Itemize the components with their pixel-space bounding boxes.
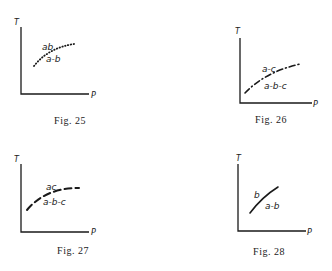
phase-diagrams-figure-set: T P ab a-b Fig. 25 T P a-c a-b-c Fig. 26… [0, 0, 332, 271]
region-label-below: a-b-c [264, 81, 287, 91]
figure-caption: Fig. 26 [255, 114, 287, 125]
y-axis-label: T [14, 155, 20, 164]
region-label-above: b [254, 190, 260, 200]
y-axis-label: T [235, 27, 241, 36]
axes [240, 38, 312, 103]
figure-26: T P a-c a-b-c Fig. 26 [235, 27, 318, 125]
region-label-above: a-c [262, 64, 276, 74]
y-axis-label: T [236, 154, 242, 163]
axes [238, 164, 306, 231]
region-label-below: a-b-c [43, 197, 66, 207]
x-axis-label: P [91, 91, 96, 100]
x-axis-label: P [307, 228, 312, 237]
figure-25: T P ab a-b Fig. 25 [14, 18, 96, 126]
figure-caption: Fig. 25 [54, 115, 86, 126]
figure-caption: Fig. 28 [253, 246, 285, 257]
x-axis-label: P [91, 228, 96, 237]
figure-caption: Fig. 27 [57, 245, 89, 256]
region-label-above: ab [42, 42, 54, 52]
region-label-below: a-b [46, 54, 61, 64]
region-label-above: ac [46, 182, 57, 192]
y-axis-label: T [14, 18, 20, 27]
figure-27: T P ac a-b-c Fig. 27 [14, 155, 96, 256]
figure-28: T P b a-b Fig. 28 [236, 154, 312, 257]
region-label-below: a-b [265, 201, 280, 211]
x-axis-label: P [313, 100, 318, 109]
